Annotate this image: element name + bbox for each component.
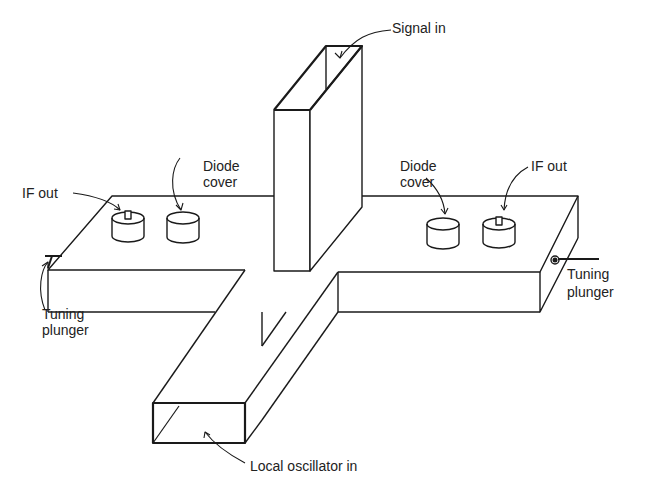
tuning-plunger-right-label-line2: plunger <box>567 284 614 301</box>
if-out-right-label: IF out <box>531 158 567 175</box>
diode-cover-right <box>427 218 459 249</box>
diode-cover-left-label-line2: cover <box>203 174 237 191</box>
diode-cover-left-label-line1: Diode <box>203 158 240 175</box>
diode-cover-left <box>167 212 199 243</box>
diode-cover-right-label-line1: Diode <box>400 158 437 175</box>
waveguide-mixer-drawing <box>0 0 649 498</box>
right-arm <box>338 196 578 312</box>
left-arm <box>48 196 274 312</box>
tuning-plunger-right <box>551 256 599 264</box>
vertical-waveguide <box>274 46 362 271</box>
if-out-mount-right <box>483 217 515 248</box>
signal-in-label: Signal in <box>392 20 446 37</box>
tuning-plunger-right-label-line1: Tuning <box>567 266 609 283</box>
tuning-plunger-left-label-line1: Tuning <box>42 306 84 323</box>
diode-cover-right-label-line2: cover <box>400 174 434 191</box>
tuning-plunger-left-label-line2: plunger <box>42 322 89 339</box>
if-out-left-label: IF out <box>22 185 58 202</box>
lower-arm <box>153 270 338 420</box>
if-out-mount-left <box>112 211 144 242</box>
local-oscillator-in-label: Local oscillator in <box>250 458 357 475</box>
